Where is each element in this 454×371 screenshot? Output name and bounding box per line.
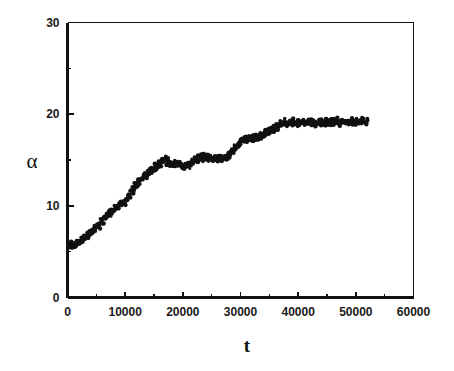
data-point xyxy=(101,223,104,226)
y-tick-label: 30 xyxy=(46,17,59,29)
data-points xyxy=(67,116,369,250)
scatter-plot-figure: 0100002000030000400005000060000 0102030 … xyxy=(0,0,454,371)
plot-frame xyxy=(68,23,414,298)
data-point xyxy=(166,156,170,160)
axis-ticks xyxy=(68,23,414,298)
data-point xyxy=(117,207,120,210)
x-tick-label: 40000 xyxy=(281,306,314,318)
data-point xyxy=(260,138,263,141)
x-tick-label: 20000 xyxy=(166,306,199,318)
data-point xyxy=(364,122,368,126)
data-point xyxy=(291,117,295,121)
x-axis-title: t xyxy=(244,336,250,355)
data-point xyxy=(262,134,266,138)
y-tick-label: 10 xyxy=(46,200,59,212)
data-point xyxy=(323,124,326,127)
x-tick-label: 0 xyxy=(64,306,71,318)
data-point xyxy=(98,226,102,230)
x-tick-label: 50000 xyxy=(339,306,372,318)
x-tick-label: 60000 xyxy=(397,306,430,318)
x-tick-label: 10000 xyxy=(108,306,141,318)
data-point xyxy=(141,178,144,181)
y-tick-label: 20 xyxy=(46,108,59,120)
data-point xyxy=(138,182,142,186)
data-point xyxy=(225,157,229,161)
data-point xyxy=(283,117,286,120)
data-point xyxy=(131,191,134,194)
x-tick-label: 30000 xyxy=(224,306,257,318)
y-tick-label: 0 xyxy=(53,292,60,304)
data-point xyxy=(93,229,97,233)
data-point xyxy=(366,117,370,121)
y-axis-title: α xyxy=(26,151,37,172)
